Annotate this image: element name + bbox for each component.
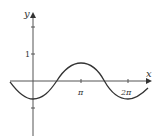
x-tick-label-pi: π bbox=[77, 88, 84, 97]
x-axis-label: x bbox=[146, 68, 152, 79]
y-axis-label: y bbox=[23, 8, 30, 19]
x-tick-label-2pi: 2π bbox=[120, 88, 132, 97]
chart: y x 1 π 2π bbox=[0, 0, 158, 140]
y-axis-arrow-icon bbox=[30, 12, 36, 18]
y-tick-label-1: 1 bbox=[25, 50, 30, 59]
